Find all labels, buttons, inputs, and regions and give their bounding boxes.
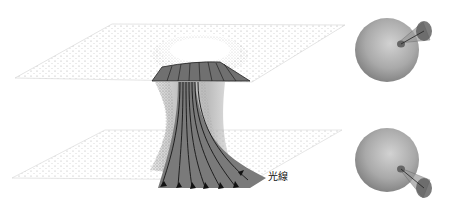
- wormhole-diagram: 光線: [0, 0, 452, 208]
- lower-sphere-with-light-cone: [355, 128, 432, 198]
- upper-sphere-with-light-cone: [355, 18, 432, 82]
- light-rays-label: 光線: [268, 172, 288, 182]
- diagram-svg: [0, 0, 452, 208]
